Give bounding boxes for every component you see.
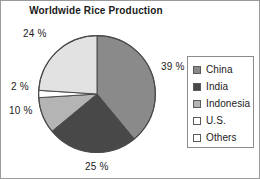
- pie-label-indonesia: 10 %: [9, 105, 33, 116]
- pie-slice-group: [39, 36, 156, 153]
- legend-item-us[interactable]: U.S.: [193, 112, 253, 129]
- legend-item-indonesia[interactable]: Indonesia: [193, 95, 253, 112]
- legend-label-us: U.S.: [206, 115, 226, 126]
- pie-chart-graphic: [38, 35, 156, 153]
- legend-swatch-us: [193, 117, 201, 125]
- chart-legend: China India Indonesia U.S. Others: [187, 56, 254, 148]
- pie-label-india: 25 %: [85, 161, 109, 172]
- pie-label-others: 24 %: [23, 28, 47, 39]
- legend-swatch-others: [193, 134, 201, 142]
- chart-title: Worldwide Rice Production: [1, 5, 191, 16]
- legend-label-indonesia: Indonesia: [206, 98, 250, 109]
- legend-item-india[interactable]: India: [193, 78, 253, 95]
- pie-chart-figure: Worldwide Rice Production 39 % 25 % 10 %…: [0, 0, 260, 179]
- legend-label-india: India: [206, 81, 228, 92]
- legend-swatch-india: [193, 83, 201, 91]
- legend-label-china: China: [206, 64, 233, 75]
- pie-svg: [38, 35, 156, 153]
- legend-label-others: Others: [206, 132, 237, 143]
- pie-slice-others[interactable]: [39, 36, 97, 94]
- legend-item-china[interactable]: China: [193, 61, 253, 78]
- pie-label-us: 2 %: [11, 81, 29, 92]
- legend-swatch-indonesia: [193, 100, 201, 108]
- pie-label-china: 39 %: [161, 61, 185, 72]
- legend-swatch-china: [193, 66, 201, 74]
- legend-item-others[interactable]: Others: [193, 129, 253, 146]
